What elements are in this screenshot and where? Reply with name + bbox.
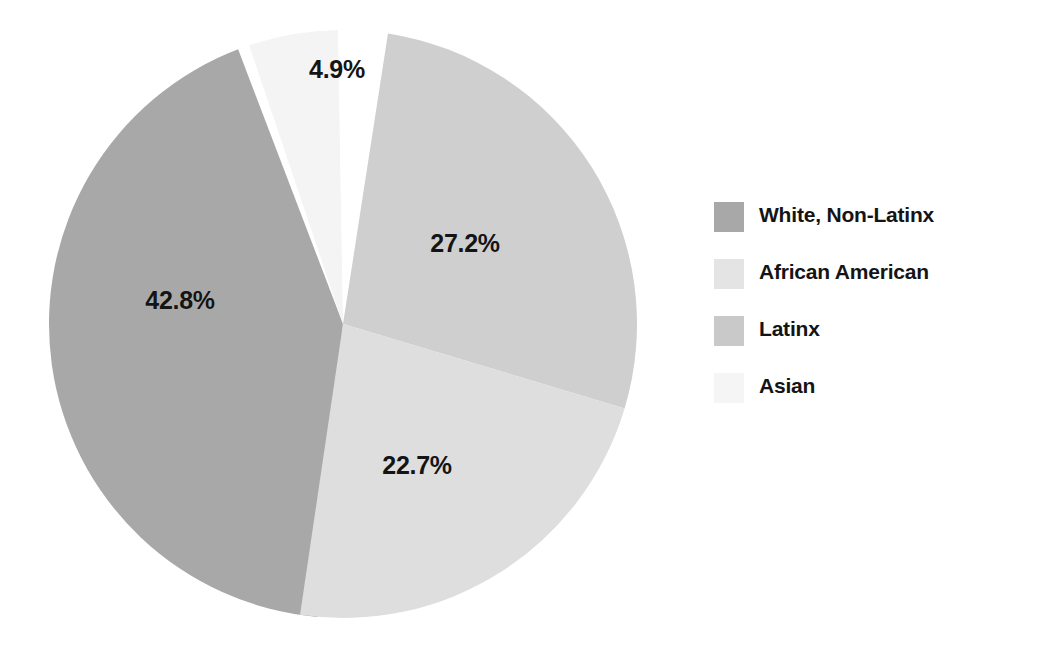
legend-item-white-non-latinx[interactable]: White, Non-Latinx	[714, 200, 1034, 257]
pie-chart-page: 42.8%27.2%22.7%4.9% White, Non-LatinxAfr…	[0, 0, 1049, 648]
pie-slice-label-latinx: 22.7%	[382, 451, 451, 480]
legend-swatch-white-non-latinx	[714, 202, 744, 232]
legend-item-african-american[interactable]: African American	[714, 257, 1034, 314]
legend-item-latinx[interactable]: Latinx	[714, 314, 1034, 371]
chart-legend: White, Non-LatinxAfrican AmericanLatinxA…	[714, 200, 1034, 428]
legend-label-asian: Asian	[759, 371, 815, 401]
legend-label-african-american: African American	[759, 257, 929, 287]
legend-label-white-non-latinx: White, Non-Latinx	[759, 200, 934, 230]
legend-swatch-african-american	[714, 259, 744, 289]
legend-swatch-asian	[714, 373, 744, 403]
legend-swatch-latinx	[714, 316, 744, 346]
pie-slice-label-white-non-latinx: 42.8%	[145, 286, 214, 315]
pie-chart-svg	[0, 0, 700, 648]
legend-item-asian[interactable]: Asian	[714, 371, 1034, 428]
pie-slice-group	[49, 30, 637, 618]
pie-slice-label-african-american: 27.2%	[430, 229, 499, 258]
pie-slice-label-asian: 4.9%	[309, 55, 365, 84]
pie-chart-area: 42.8%27.2%22.7%4.9%	[0, 0, 700, 648]
legend-label-latinx: Latinx	[759, 314, 820, 344]
